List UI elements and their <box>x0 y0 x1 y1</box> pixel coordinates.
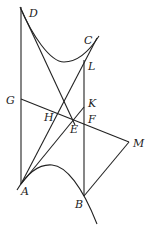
label-L: L <box>87 60 95 73</box>
label-D: D <box>28 7 38 20</box>
geometry-diagram: D C L G K H E F M A B <box>0 0 152 234</box>
line-AC <box>21 38 97 184</box>
label-E: E <box>69 123 78 136</box>
label-H: H <box>43 111 54 124</box>
label-M: M <box>132 137 145 150</box>
label-K: K <box>87 97 97 110</box>
label-C: C <box>84 34 93 47</box>
label-A: A <box>20 185 29 198</box>
label-G: G <box>6 94 15 107</box>
label-F: F <box>87 113 96 126</box>
label-B: B <box>74 198 83 211</box>
line-DE <box>21 9 75 125</box>
line-MB <box>84 142 129 196</box>
